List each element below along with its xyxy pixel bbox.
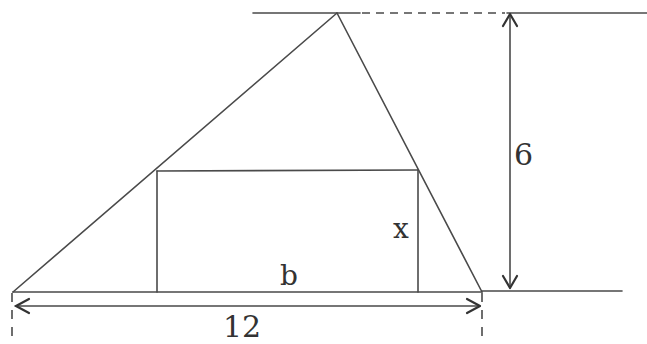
triangle-base-label: 12 xyxy=(223,312,261,342)
triangle-left-side xyxy=(13,13,337,292)
height-label: 6 xyxy=(514,140,533,170)
rectangle-height-label: x xyxy=(393,215,409,243)
geometry-diagram xyxy=(0,0,647,344)
rectangle-base-label: b xyxy=(280,262,298,290)
rectangle-top xyxy=(157,170,418,171)
triangle-right-side xyxy=(337,13,482,292)
